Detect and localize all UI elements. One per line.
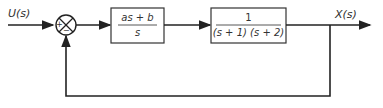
controller-denominator: s [111,27,164,38]
plant-denominator: (s + 1) (s + 2) [211,27,286,38]
controller-block: as + b s [111,8,164,43]
controller-numerator: as + b [111,12,164,23]
diagram-lines [0,0,383,108]
plus-sign: + [56,20,63,29]
minus-sign: − [63,26,70,35]
plant-numerator: 1 [211,12,286,23]
plant-block: 1 (s + 1) (s + 2) [211,8,286,43]
block-diagram: U(s) X(s) + − as + b s 1 (s + 1) (s + 2) [0,0,383,108]
input-label: U(s) [8,7,30,20]
output-label: X(s) [335,8,357,21]
